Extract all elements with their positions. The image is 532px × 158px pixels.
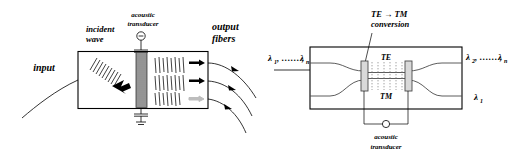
conversion-label-line1: TE → TM	[371, 9, 408, 19]
output-top-lambda-symbol-1: λ	[465, 52, 470, 62]
fiber-arrowhead-2	[228, 85, 236, 91]
output-top-port-label: λ 2 , …… , λ n	[465, 52, 508, 64]
output-fibers-label-line2: fibers	[212, 33, 235, 44]
fiber-arrowhead-1	[231, 66, 239, 72]
output-beam-arrow-3	[189, 96, 204, 102]
input-lambda-symbol-2: λ	[299, 53, 304, 63]
right-transducer-label-line2: transducer	[370, 143, 401, 151]
diffracted-wavefronts-row3	[155, 92, 180, 106]
input-coupler-waveguides	[310, 63, 364, 96]
fiber-arrowhead-3	[224, 104, 232, 110]
output-bottom-port-label: λ 1	[473, 92, 483, 104]
polarization-splitter-right	[405, 61, 412, 91]
left-transducer-label-line2: transducer	[127, 20, 158, 28]
incident-wavefront-grating	[90, 58, 121, 86]
left-transducer-label-line1: acoustic	[131, 11, 155, 19]
interdigital-transducer-bar	[136, 53, 147, 108]
circle-source-icon	[382, 120, 389, 127]
ground-icon	[134, 108, 148, 125]
incident-wave-label-line1: incident	[86, 24, 115, 34]
right-diagram-panel: TE → TM conversion λ 1 , …… , λ n λ	[266, 0, 532, 158]
output-top-lambda-symbol-2: λ	[497, 52, 502, 62]
output-fibers-label-line1: output	[212, 21, 240, 32]
diffracted-wavefronts-row2	[155, 75, 184, 91]
mode-label-tm: TM	[380, 92, 393, 101]
mode-label-te: TE	[381, 53, 391, 62]
output-coupler-waveguides	[408, 63, 462, 96]
left-diagram-svg: acoustic transducer incident wave output…	[0, 0, 266, 158]
input-port-label: λ 1 , …… , λ n	[267, 53, 310, 65]
input-lambda-sub-2: n	[306, 59, 310, 65]
input-fiber-curve	[22, 80, 78, 118]
left-diagram-panel: acoustic transducer incident wave output…	[0, 0, 266, 158]
output-fiber-curve-3	[208, 99, 246, 133]
figure-canvas: acoustic transducer incident wave output…	[0, 0, 532, 158]
output-beam-arrow-2	[189, 78, 205, 85]
interaction-region-waveguides	[364, 73, 408, 79]
output-bottom-lambda-sub: 1	[480, 98, 483, 104]
incident-wave-label-line2: wave	[86, 34, 104, 44]
input-label: input	[33, 62, 56, 73]
thick-right-arrow-icon	[112, 80, 131, 94]
diffracted-wavefronts-row1	[155, 57, 184, 73]
right-diagram-svg: TE → TM conversion λ 1 , …… , λ n λ	[266, 0, 532, 158]
saw-finger-lines	[372, 62, 402, 90]
polarization-splitter-left	[361, 61, 368, 91]
conversion-label-line2: conversion	[371, 19, 410, 29]
output-bottom-lambda-symbol: λ	[473, 92, 478, 102]
output-top-lambda-sub-2: n	[504, 58, 508, 64]
right-transducer-label-line1: acoustic	[374, 133, 398, 141]
circle-source-icon	[137, 32, 145, 50]
input-lambda-symbol-1: λ	[267, 53, 272, 63]
output-beam-arrow-1	[189, 60, 205, 67]
